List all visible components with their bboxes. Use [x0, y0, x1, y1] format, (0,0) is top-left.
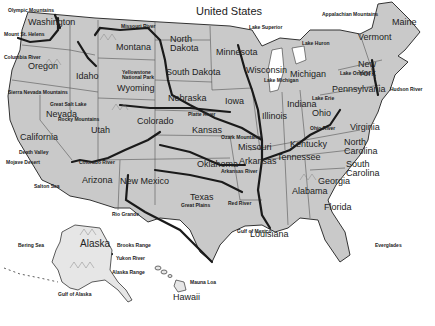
state-label: Minnesota: [216, 48, 258, 57]
feature-label: Missouri River: [121, 24, 155, 29]
feature-label: Platte River: [188, 112, 216, 117]
feature-label: Salton Sea: [34, 184, 60, 189]
feature-label: Lake Huron: [302, 41, 330, 46]
aleutian-islands: [4, 268, 58, 282]
state-label: Illinois: [262, 112, 287, 121]
feature-label: Rio Grande: [112, 212, 139, 217]
state-label: Washington: [28, 18, 75, 27]
state-label: Hawaii: [173, 293, 200, 302]
feature-label: Olympic Mountains: [8, 8, 54, 13]
state-label: North Dakota: [170, 35, 210, 53]
state-label: Tennessee: [277, 153, 321, 162]
state-label: Alabama: [292, 187, 328, 196]
state-label: Kansas: [192, 126, 222, 135]
map-title: United States: [196, 6, 262, 17]
state-label: Missouri: [238, 143, 272, 152]
state-label: Alaska: [80, 239, 110, 249]
feature-label: Lake Superior: [249, 25, 282, 30]
state-label: New Mexico: [120, 177, 169, 186]
state-label: Georgia: [318, 177, 350, 186]
state-label: Arkansas: [239, 157, 277, 166]
feature-label: Columbia River: [4, 55, 41, 60]
feature-label: Alaska Range: [112, 270, 145, 275]
feature-label: Lake Michigan: [264, 78, 298, 83]
state-label: Montana: [116, 43, 151, 52]
state-label: Vermont: [358, 33, 392, 42]
state-label: Pennsylvania: [332, 85, 386, 94]
feature-label: Brooks Range: [117, 243, 151, 248]
state-label: Wyoming: [117, 84, 154, 93]
state-label: Texas: [190, 193, 214, 202]
state-label: Florida: [324, 203, 352, 212]
state-label: Utah: [91, 126, 110, 135]
feature-label: Arkansas River: [221, 169, 257, 174]
state-label: Kentucky: [290, 140, 327, 149]
feature-label: Lake Ontario: [340, 71, 371, 76]
state-label: Iowa: [225, 97, 244, 106]
feature-label: Red River: [228, 201, 251, 206]
feature-label: Death Valley: [19, 150, 48, 155]
hawaii-islands: [155, 266, 186, 292]
feature-label: Bering Sea: [18, 243, 44, 248]
feature-label: Sierra Nevada Mountains: [8, 90, 68, 95]
feature-label: Ozark Mountains: [221, 135, 261, 140]
state-label: Ohio: [312, 109, 331, 118]
feature-label: Mojave Desert: [6, 160, 40, 165]
feature-label: Ohio River: [310, 126, 335, 131]
feature-label: Yukon River: [116, 256, 145, 261]
state-label: California: [20, 133, 58, 142]
feature-label: Rocky Mountains: [58, 117, 99, 122]
state-label: Colorado: [137, 117, 174, 126]
feature-label: Gulf of Alaska: [58, 292, 91, 297]
feature-label: Everglades: [375, 243, 402, 248]
state-label: Maine: [392, 18, 417, 27]
state-label: North Carolina: [344, 138, 380, 156]
feature-label: Gulf of Mexico: [237, 229, 271, 234]
state-label: Arizona: [82, 176, 113, 185]
feature-label: Mauna Loa: [190, 280, 216, 285]
state-label: Wisconsin: [246, 66, 287, 75]
feature-label: Hudson River: [390, 87, 423, 92]
state-label: Oregon: [28, 62, 58, 71]
feature-label: Mount St. Helens: [4, 32, 45, 37]
feature-label: Lake Erie: [312, 96, 334, 101]
feature-label: Yellowstone National Park: [122, 70, 158, 80]
state-label: Virginia: [350, 123, 380, 132]
state-label: Nebraska: [168, 94, 207, 103]
us-map: United States Washington Oregon Californ…: [0, 0, 435, 326]
feature-label: Colorado River: [79, 160, 115, 165]
state-label: South Dakota: [166, 68, 221, 77]
state-label: South Carolina: [346, 160, 382, 178]
feature-label: Great Plains: [181, 203, 210, 208]
feature-label: Appalachian Mountains: [322, 12, 378, 17]
feature-label: Great Salt Lake: [50, 102, 86, 107]
state-label: Idaho: [76, 72, 99, 81]
